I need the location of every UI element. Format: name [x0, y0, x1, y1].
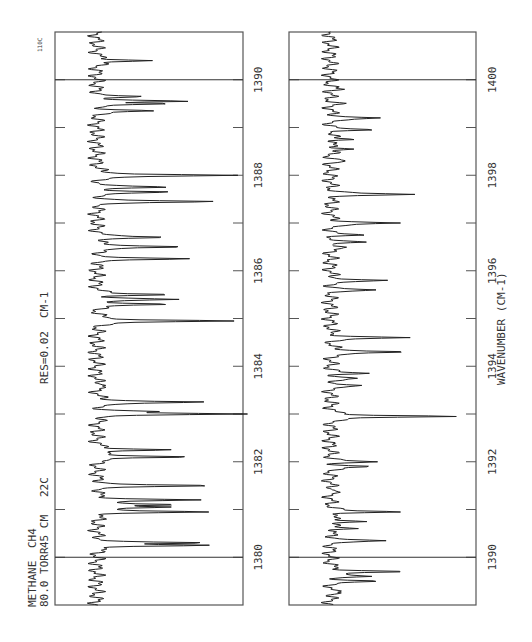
tick-label: 1390: [486, 544, 499, 571]
spectrum-figure: 138013821384138613881390 139013921394139…: [0, 0, 532, 642]
tick-label: 1388: [252, 162, 265, 189]
temperature-label: 22C: [38, 477, 51, 497]
upper-plot-frame: [55, 32, 243, 605]
path-length-label: 45 CM: [38, 515, 51, 548]
tick-label: 1380: [252, 544, 265, 571]
upper-axis-ticks: 138013821384138613881390: [55, 67, 265, 571]
tick-label: 1390: [252, 67, 265, 94]
x-axis-title: WAVENUMBER (CM-1): [495, 272, 508, 385]
tick-label: 1392: [486, 449, 499, 476]
tick-label: 1400: [486, 67, 499, 94]
tick-label: 1384: [252, 353, 265, 380]
lower-axis-ticks: 139013921394139613981400: [289, 67, 499, 571]
pressure-label: 80.0 TORR: [38, 547, 51, 607]
lower-plot-frame: [289, 32, 476, 605]
tick-label: 1386: [252, 258, 265, 285]
resolution-label: RES=0.02: [38, 331, 51, 384]
upper-spectrum-trace: [87, 32, 247, 605]
tick-label: 1398: [486, 162, 499, 189]
lower-spectrum-trace: [321, 32, 456, 605]
corner-tag-label: 110C: [36, 37, 43, 52]
resolution-unit-label: CM-1: [38, 292, 51, 319]
tick-label: 1382: [252, 449, 265, 476]
